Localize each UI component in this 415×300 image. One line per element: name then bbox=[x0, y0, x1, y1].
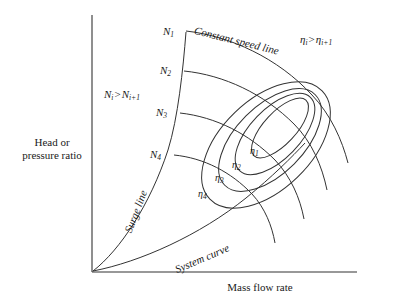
y-axis-label-line1: Head or bbox=[14, 136, 90, 149]
efficiency-label-eta1-sub: 1 bbox=[255, 149, 259, 158]
speed-line-label-n2: N2 bbox=[160, 64, 171, 78]
y-axis-label: Head or pressure ratio bbox=[14, 136, 90, 162]
speed-line-n3 bbox=[180, 113, 304, 219]
eff-order-gt: > bbox=[308, 33, 316, 45]
efficiency-label-eta4: η4 bbox=[198, 188, 207, 201]
efficiency-label-eta1: η1 bbox=[250, 145, 259, 158]
efficiency-order-note: ηi>ηi+1 bbox=[300, 33, 332, 47]
speed-line-n4 bbox=[174, 155, 275, 243]
efficiency-label-eta2-sub: 2 bbox=[237, 163, 241, 172]
speed-order-symbol-right: N bbox=[122, 88, 129, 100]
speed-line-label-n4: N4 bbox=[150, 148, 161, 162]
y-axis-label-line2: pressure ratio bbox=[14, 149, 90, 162]
efficiency-contours-group bbox=[179, 58, 354, 231]
speed-line-label-n1: N1 bbox=[163, 25, 174, 39]
speed-line-label-n2-sub: 2 bbox=[167, 69, 171, 78]
x-axis-label: Mass flow rate bbox=[200, 281, 320, 294]
speed-order-note: Ni>Ni+1 bbox=[104, 88, 140, 102]
speed-line-label-n4-sub: 4 bbox=[157, 153, 161, 162]
efficiency-contour-eta3 bbox=[201, 71, 340, 210]
speed-line-label-n1-sub: 1 bbox=[170, 30, 174, 39]
figure-canvas: Head or pressure ratio Mass flow rate N1… bbox=[0, 0, 415, 300]
speed-order-sub-right: i+1 bbox=[129, 93, 140, 102]
surge-line-curve bbox=[93, 32, 186, 271]
efficiency-contour-eta2 bbox=[222, 80, 329, 188]
efficiency-label-eta3-sub: 3 bbox=[220, 176, 224, 185]
efficiency-label-eta4-sub: 4 bbox=[203, 192, 207, 201]
efficiency-label-eta2: η2 bbox=[232, 159, 241, 172]
x-axis-label-text: Mass flow rate bbox=[227, 281, 292, 293]
constant-speed-lines-group bbox=[174, 31, 348, 243]
speed-line-label-n3-sub: 3 bbox=[163, 111, 167, 120]
efficiency-label-eta3: η3 bbox=[215, 172, 224, 185]
efficiency-contour-eta4 bbox=[179, 58, 354, 231]
eff-order-sub-right: i+1 bbox=[321, 38, 332, 47]
speed-order-gt: > bbox=[113, 88, 121, 100]
speed-line-label-n3: N3 bbox=[156, 106, 167, 120]
